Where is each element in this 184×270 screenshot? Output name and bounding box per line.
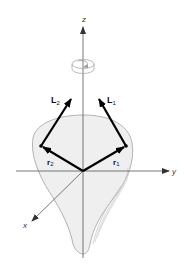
- y-axis-label: y: [171, 167, 177, 176]
- z-axis-label: z: [81, 15, 86, 24]
- L2-label: L2: [51, 95, 61, 106]
- L1-label: L1: [107, 95, 117, 106]
- rigid-body-diagram: z y x L2 L1 r2 r1: [0, 0, 184, 270]
- x-axis-label: x: [22, 221, 28, 230]
